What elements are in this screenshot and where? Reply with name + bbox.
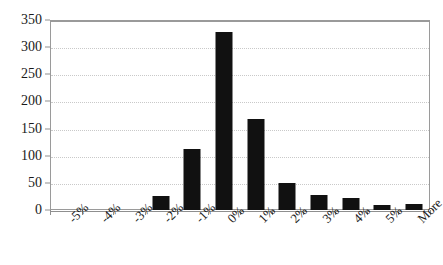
- bar-slot: [145, 20, 177, 210]
- y-axis-tick-label: 150: [0, 122, 42, 136]
- y-axis-tick-label: 50: [0, 176, 42, 190]
- bar-slot: [113, 20, 145, 210]
- bar: [247, 119, 264, 210]
- bar: [279, 183, 296, 210]
- bar-slot: [82, 20, 114, 210]
- x-axis-tick: [50, 210, 51, 215]
- bar: [216, 32, 233, 210]
- bar-slot: [303, 20, 335, 210]
- bar-slot: [208, 20, 240, 210]
- histogram-chart: 050100150200250300350 -5%-4%-3%-2%-1%0%1…: [0, 0, 443, 265]
- bar: [184, 149, 201, 210]
- y-axis-tick-label: 100: [0, 149, 42, 163]
- y-axis-tick-label: 250: [0, 67, 42, 81]
- y-axis-tick-label: 350: [0, 13, 42, 27]
- bar-slot: [367, 20, 399, 210]
- y-axis-tick-label: 0: [0, 203, 42, 217]
- bar-slot: [272, 20, 304, 210]
- bar-slot: [398, 20, 430, 210]
- bars-group: [50, 20, 430, 210]
- bar-slot: [335, 20, 367, 210]
- x-axis: -5%-4%-3%-2%-1%0%1%2%3%4%5%More: [50, 216, 430, 265]
- bar-slot: [50, 20, 82, 210]
- bar-slot: [177, 20, 209, 210]
- y-axis-tick-label: 300: [0, 40, 42, 54]
- bar-slot: [240, 20, 272, 210]
- y-axis-tick-label: 200: [0, 94, 42, 108]
